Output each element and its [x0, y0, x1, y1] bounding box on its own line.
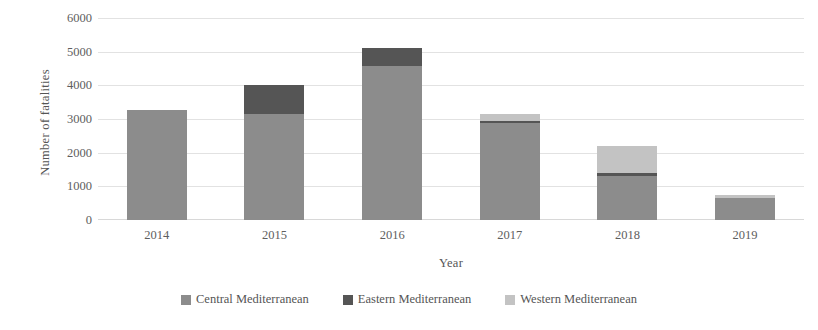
y-axis-tick-label: 1000 [22, 179, 92, 194]
bar-group[interactable] [687, 18, 804, 220]
bar-segment[interactable] [127, 110, 187, 220]
bar-stack[interactable] [597, 146, 657, 220]
bar-group[interactable] [216, 18, 333, 220]
chart-legend: Central MediterraneanEastern Mediterrane… [0, 292, 818, 307]
legend-swatch-icon [181, 295, 191, 305]
y-axis-tick-label: 2000 [22, 145, 92, 160]
x-axis-title: Year [98, 256, 804, 271]
bar-segment[interactable] [715, 198, 775, 220]
x-axis-tick-labels: 201420152016201720182019 [98, 228, 804, 243]
plot-area: 0100020003000400050006000 [98, 18, 804, 220]
bar-stack[interactable] [244, 85, 304, 220]
legend-item[interactable]: Eastern Mediterranean [343, 292, 471, 307]
legend-item[interactable]: Western Mediterranean [505, 292, 637, 307]
bar-stack[interactable] [480, 114, 540, 220]
x-axis-tick-label: 2018 [569, 228, 686, 243]
y-axis-tick-label: 3000 [22, 112, 92, 127]
bar-segment[interactable] [244, 114, 304, 220]
bar-segment[interactable] [597, 146, 657, 173]
bar-group[interactable] [98, 18, 215, 220]
legend-swatch-icon [505, 295, 515, 305]
y-axis-tick-label: 6000 [22, 11, 92, 26]
bar-segment[interactable] [244, 85, 304, 114]
bar-group[interactable] [451, 18, 568, 220]
x-axis-tick-label: 2014 [98, 228, 215, 243]
bar-segment[interactable] [480, 123, 540, 220]
legend-item[interactable]: Central Mediterranean [181, 292, 309, 307]
legend-label: Central Mediterranean [196, 292, 309, 307]
y-axis-tick-label: 5000 [22, 44, 92, 59]
x-axis-tick-label: 2015 [216, 228, 333, 243]
y-axis-tick-label: 0 [22, 213, 92, 228]
bar-segment[interactable] [362, 48, 422, 66]
stacked-bar-chart: Number of fatalities 0100020003000400050… [0, 0, 818, 330]
legend-swatch-icon [343, 295, 353, 305]
bar-segment[interactable] [597, 176, 657, 220]
x-axis-tick-label: 2019 [687, 228, 804, 243]
bar-stack[interactable] [362, 48, 422, 220]
bar-segment[interactable] [362, 66, 422, 220]
bar-stack[interactable] [127, 110, 187, 220]
bar-stack[interactable] [715, 195, 775, 220]
legend-label: Western Mediterranean [520, 292, 637, 307]
legend-label: Eastern Mediterranean [358, 292, 471, 307]
bar-series-container [98, 18, 804, 220]
bar-group[interactable] [334, 18, 451, 220]
x-axis-tick-label: 2017 [451, 228, 568, 243]
bar-group[interactable] [569, 18, 686, 220]
y-axis-tick-label: 4000 [22, 78, 92, 93]
x-axis-tick-label: 2016 [334, 228, 451, 243]
bar-segment[interactable] [480, 114, 540, 121]
